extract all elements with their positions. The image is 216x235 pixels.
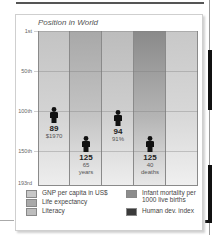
page-left-rule (0, 220, 14, 221)
person-icon (47, 107, 61, 123)
metric-value: 40 (132, 162, 168, 169)
person-icon (143, 136, 157, 152)
y-tick-label: 1st (14, 28, 32, 34)
legend-swatch (126, 208, 137, 216)
rank-value: 94 (103, 127, 133, 136)
rank-value: 89 (39, 124, 69, 133)
y-tick-label: 50th (14, 68, 32, 74)
top-rule (16, 2, 204, 4)
y-tick-label: 193rd (14, 180, 32, 186)
page-edge-bar (208, 165, 212, 223)
legend-label: Infant mortality per 1000 live births (142, 189, 196, 203)
legend-label: Human dev. index (142, 207, 194, 214)
legend-swatch (126, 190, 137, 198)
legend-swatch (26, 199, 37, 207)
plot-area: 1st 50th 100th 150th 193rd 89 $1970 125 … (38, 31, 198, 186)
legend-swatch (26, 190, 37, 198)
rank-value: 125 (135, 153, 165, 162)
metric-value: 65 (68, 162, 104, 169)
y-tick-label: 100th (14, 108, 32, 114)
person-icon (111, 110, 125, 126)
metric-unit: deaths (132, 169, 168, 176)
metric-value: $1970 (36, 133, 72, 140)
legend-item-human-dev-index: Human dev. index (126, 207, 194, 216)
page-edge-foot (205, 220, 212, 223)
legend-swatch (26, 208, 37, 216)
legend-label: Literacy (42, 207, 65, 214)
gridline (34, 31, 198, 32)
legend-label: GNP per capita in US$ (42, 189, 108, 196)
y-tick-label: 150th (14, 148, 32, 154)
column-literacy (102, 31, 134, 186)
legend-item-infant-mortality: Infant mortality per 1000 live births (126, 189, 196, 203)
legend-label: Life expectancy (42, 198, 87, 205)
gridline (34, 71, 198, 72)
legend-item-gnp: GNP per capita in US$ (26, 189, 108, 198)
page-edge-bar (208, 50, 212, 110)
legend-item-life-expectancy: Life expectancy (26, 198, 87, 207)
metric-value: 91% (100, 136, 136, 143)
rank-value: 125 (71, 153, 101, 162)
column-human-dev-index (166, 31, 198, 186)
legend-item-literacy: Literacy (26, 207, 65, 216)
gridline (34, 151, 198, 152)
person-icon (79, 136, 93, 152)
legend: GNP per capita in US$ Life expectancy Li… (26, 189, 202, 229)
chart-title: Position in World (38, 18, 98, 27)
metric-unit: years (68, 169, 104, 176)
chart-card: Position in World 1st 50th 100th 150th 1… (15, 14, 203, 231)
